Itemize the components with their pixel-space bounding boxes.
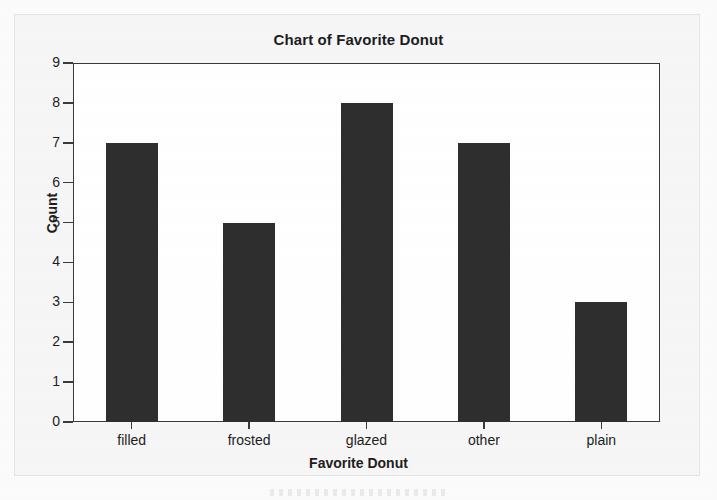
x-axis-tick bbox=[601, 422, 603, 429]
y-axis-tick bbox=[63, 62, 73, 64]
y-axis-tick-label: 2 bbox=[40, 334, 60, 348]
y-axis-tick-label: 6 bbox=[40, 175, 60, 189]
chart-page: Chart of Favorite Donut Count 0123456789… bbox=[0, 0, 717, 500]
y-axis-tick bbox=[63, 381, 73, 383]
x-axis-tick bbox=[248, 422, 250, 429]
x-axis-tick bbox=[131, 422, 133, 429]
bar bbox=[458, 143, 510, 422]
y-axis-tick-label: 1 bbox=[40, 374, 60, 388]
y-axis-tick-label: 5 bbox=[40, 215, 60, 229]
page-bottom-artifact bbox=[270, 489, 450, 496]
y-axis-tick-label: 4 bbox=[40, 254, 60, 268]
bar bbox=[341, 103, 393, 422]
y-axis-tick bbox=[63, 262, 73, 264]
chart-title: Chart of Favorite Donut bbox=[0, 31, 717, 48]
x-axis-tick-label: filled bbox=[72, 432, 192, 448]
bar bbox=[575, 302, 627, 422]
x-axis-tick bbox=[483, 422, 485, 429]
x-axis-tick-label: plain bbox=[541, 432, 661, 448]
y-axis-tick bbox=[63, 341, 73, 343]
y-axis-tick-label: 7 bbox=[40, 135, 60, 149]
bar bbox=[106, 143, 158, 422]
y-axis-tick bbox=[63, 182, 73, 184]
x-axis-tick-label: frosted bbox=[189, 432, 309, 448]
x-axis-title: Favorite Donut bbox=[0, 455, 717, 471]
y-axis-tick bbox=[63, 102, 73, 104]
y-axis-tick-label: 0 bbox=[40, 414, 60, 428]
y-axis-tick bbox=[63, 142, 73, 144]
bar-series bbox=[73, 63, 660, 422]
y-axis-tick bbox=[63, 302, 73, 304]
y-axis-tick-label: 3 bbox=[40, 294, 60, 308]
x-axis-tick-label: other bbox=[424, 432, 544, 448]
y-axis-tick bbox=[63, 222, 73, 224]
y-axis-tick-label: 8 bbox=[40, 95, 60, 109]
y-axis-tick bbox=[63, 421, 73, 423]
y-axis-tick-label: 9 bbox=[40, 55, 60, 69]
bar bbox=[223, 223, 275, 422]
x-axis-tick bbox=[366, 422, 368, 429]
x-axis-tick-label: glazed bbox=[307, 432, 427, 448]
